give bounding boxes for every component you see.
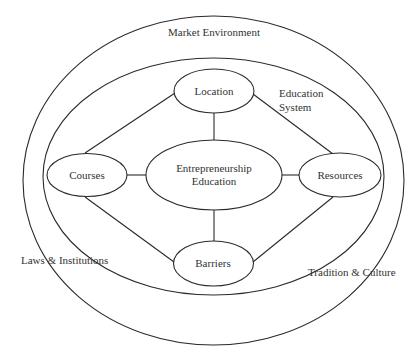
location-label: Location (194, 85, 234, 97)
laws-institutions-label: Laws & Institutions (21, 254, 108, 266)
education-system-label-1: Education (279, 87, 324, 99)
edge-location-courses (85, 93, 175, 153)
barriers-label: Barriers (195, 257, 230, 269)
tradition-culture-label: Tradition & Culture (308, 266, 396, 278)
resources-label: Resources (317, 169, 362, 181)
ecosystem-diagram: Market Environment Education System Loca… (0, 0, 419, 359)
edge-courses-barriers (85, 197, 174, 262)
market-environment-label: Market Environment (168, 26, 260, 38)
education-system-label-2: System (279, 101, 312, 113)
center-label-2: Education (192, 175, 237, 187)
edge-resources-barriers (253, 197, 333, 262)
center-label-1: Entrepreneurship (176, 162, 252, 174)
courses-label: Courses (69, 169, 104, 181)
